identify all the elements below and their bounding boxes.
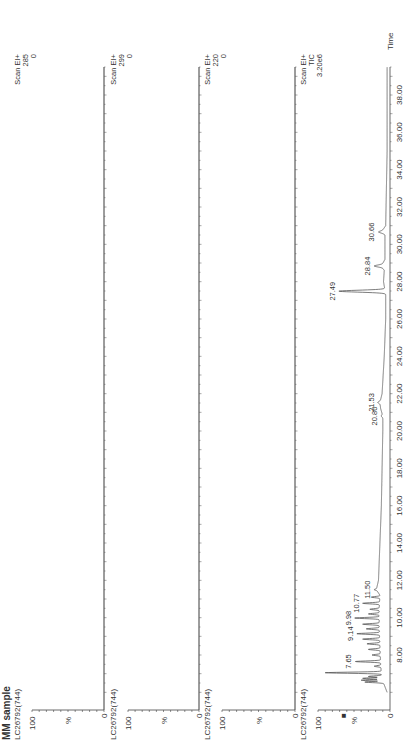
xtick-label: 32.00 xyxy=(395,196,404,217)
trace-id-label: LC26792(744) xyxy=(203,689,212,740)
ytick-100: 100 xyxy=(28,716,37,730)
peak-label: 7.65 xyxy=(344,654,353,669)
max-intensity-label: 3.20e6 xyxy=(315,54,324,77)
ylabel-percent: % xyxy=(350,717,359,724)
peak-label: 28.84 xyxy=(363,257,372,276)
peak-label: 21.53 xyxy=(367,393,376,412)
xtick-label: 30.00 xyxy=(395,234,404,255)
chromatogram-page: MM sample LC26792(744)100%0Scan EI+2850L… xyxy=(0,0,415,742)
peak-label: 9.98 xyxy=(344,611,353,626)
xtick-label: 18.00 xyxy=(395,458,404,479)
peak-label: 11.50 xyxy=(363,581,372,599)
ytick-100: 100 xyxy=(314,716,323,730)
xtick-label: 28.00 xyxy=(395,271,404,292)
xtick-label: 34.00 xyxy=(395,159,404,180)
chromatogram-chart: MM sample LC26792(744)100%0Scan EI+2850L… xyxy=(0,0,415,742)
ytick-0: 0 xyxy=(100,713,109,718)
panel-1: LC26792(744)100%0Scan EI+2850 xyxy=(13,53,109,740)
peak-label: 9.14 xyxy=(346,626,355,641)
xtick-label: 20.00 xyxy=(395,420,404,441)
xtick-label: 24.00 xyxy=(395,346,404,367)
ytick-100: 100 xyxy=(124,716,133,730)
panel-2: LC26792(744)100%0Scan EI+2990 xyxy=(109,53,204,740)
xtick-label: 16.00 xyxy=(395,495,404,516)
max-intensity-label: 0 xyxy=(29,54,38,58)
peak-label: 30.66 xyxy=(367,223,376,242)
marker-square-icon: ■ xyxy=(339,713,348,718)
max-intensity-label: 0 xyxy=(125,54,134,58)
panel-4: LC26792(744)100%0Scan EI+TIC3.20e67.659.… xyxy=(299,32,404,740)
peak-label: 10.77 xyxy=(352,594,361,613)
ylabel-percent: % xyxy=(64,717,73,724)
trace-id-label: LC26792(744) xyxy=(299,689,308,740)
xtick-label: 8.00 xyxy=(395,647,404,663)
ytick-0: 0 xyxy=(386,713,395,718)
xtick-label: 22.00 xyxy=(395,383,404,404)
xtick-label: 12.00 xyxy=(395,570,404,591)
xtick-label: 38.00 xyxy=(395,84,404,105)
ylabel-percent: % xyxy=(160,717,169,724)
xtick-label: 14.00 xyxy=(395,532,404,553)
max-intensity-label: 0 xyxy=(219,54,228,58)
xtick-label: 10.00 xyxy=(395,607,404,628)
sample-title: MM sample xyxy=(1,686,12,740)
x-axis-label: Time xyxy=(386,32,395,50)
ytick-100: 100 xyxy=(218,716,227,730)
peak-label: 27.49 xyxy=(328,282,337,301)
panel-3: LC26792(744)100%0Scan EI+2200 xyxy=(203,53,300,740)
xtick-label: 26.00 xyxy=(395,308,404,329)
ylabel-percent: % xyxy=(255,717,264,724)
xtick-label: 36.00 xyxy=(395,122,404,143)
trace-id-label: LC26792(744) xyxy=(13,689,22,740)
trace-id-label: LC26792(744) xyxy=(109,689,118,740)
